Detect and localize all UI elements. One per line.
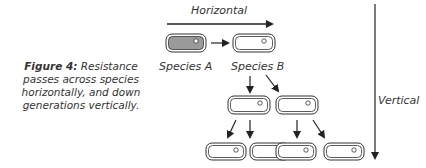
diagram-canvas — [0, 0, 426, 168]
bacterium-gen3-4 — [324, 143, 364, 160]
bacterium-gen3-3 — [276, 143, 316, 160]
bacterium-gen3-1 — [206, 143, 246, 160]
bacterium-gen2-1 — [228, 96, 270, 114]
bacterium-gen2-2 — [276, 96, 318, 114]
bacterium-species-b — [233, 34, 275, 52]
bacterium-species-a — [166, 34, 206, 52]
